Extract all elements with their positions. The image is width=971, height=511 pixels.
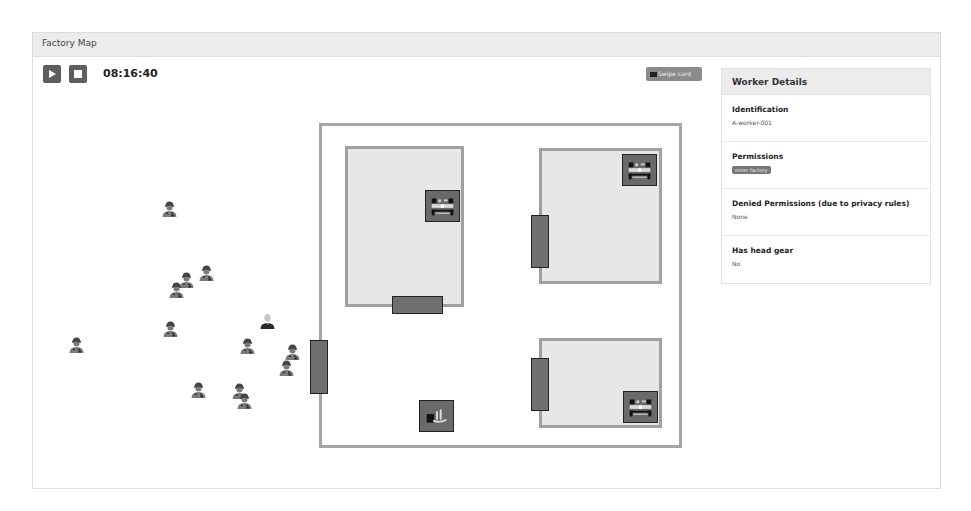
head-gear-row: Has head gear No xyxy=(722,236,930,283)
worker-hardhat-icon xyxy=(162,320,179,337)
room-top-left-door[interactable] xyxy=(392,296,443,314)
denied-permissions-row: Denied Permissions (due to privacy rules… xyxy=(722,189,930,236)
worker-hardhat-icon xyxy=(190,381,207,398)
worker-details-panel: Worker Details Identification A-worker-0… xyxy=(721,68,931,284)
worker[interactable] xyxy=(278,359,295,376)
worker-hardhat-icon xyxy=(198,264,215,281)
permissions-row: Permissions enter factory xyxy=(722,142,930,189)
worker-hardhat-icon xyxy=(236,392,253,409)
worker-selected[interactable] xyxy=(259,312,276,329)
play-button[interactable] xyxy=(43,65,61,83)
worker[interactable] xyxy=(162,320,179,337)
panel-title: Factory Map xyxy=(33,33,940,57)
worker[interactable] xyxy=(190,381,207,398)
worker[interactable] xyxy=(284,343,301,360)
stop-icon xyxy=(74,70,82,78)
denied-permissions-value: None xyxy=(732,213,920,220)
worker[interactable] xyxy=(161,200,178,217)
worker-hardhat-icon xyxy=(168,281,185,298)
worker-hardhat-icon xyxy=(278,359,295,376)
room-top-right-door[interactable] xyxy=(531,215,549,268)
simulation-clock: 08:16:40 xyxy=(103,67,158,80)
room-bottom-right-door[interactable] xyxy=(531,358,549,411)
helmet-dispenser xyxy=(419,400,454,432)
factory-map-panel: Factory Map 08:16:40 Swipe card Worker D… xyxy=(32,32,941,489)
swipe-card-button[interactable]: Swipe card xyxy=(646,67,702,81)
id-card-icon xyxy=(650,72,657,77)
play-icon xyxy=(49,70,56,78)
machine-room-bottom-right xyxy=(623,391,658,423)
permission-badge: enter factory xyxy=(732,166,771,174)
room-top-left xyxy=(345,146,464,307)
permissions-label: Permissions xyxy=(732,152,920,161)
worker-hardhat-icon xyxy=(68,336,85,353)
worker[interactable] xyxy=(236,392,253,409)
stop-button[interactable] xyxy=(69,65,87,83)
machine-room-top-right xyxy=(622,154,657,186)
panel-body: 08:16:40 Swipe card Worker Details Ident… xyxy=(33,57,940,488)
machine-room-top-left xyxy=(425,190,460,222)
worker-hardhat-icon xyxy=(161,200,178,217)
denied-permissions-label: Denied Permissions (due to privacy rules… xyxy=(732,199,920,208)
head-gear-value: No xyxy=(732,260,920,267)
worker[interactable] xyxy=(68,336,85,353)
worker-hardhat-icon xyxy=(239,337,256,354)
worker-hardhat-icon xyxy=(284,343,301,360)
worker-details-title: Worker Details xyxy=(722,69,930,95)
identification-value: A-worker-001 xyxy=(732,119,920,126)
factory-entrance-door[interactable] xyxy=(310,340,328,394)
worker-no-hardhat-icon xyxy=(259,312,276,329)
worker[interactable] xyxy=(198,264,215,281)
head-gear-label: Has head gear xyxy=(732,246,920,255)
worker[interactable] xyxy=(239,337,256,354)
worker[interactable] xyxy=(168,281,185,298)
identification-label: Identification xyxy=(732,105,920,114)
swipe-card-label: Swipe card xyxy=(658,70,691,77)
identification-row: Identification A-worker-001 xyxy=(722,95,930,142)
